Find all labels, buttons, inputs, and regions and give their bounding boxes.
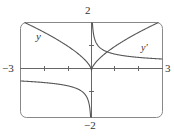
curve-y-prime-negative — [21, 81, 91, 117]
x-max-label: 3 — [165, 63, 171, 74]
series-label-y: y — [36, 31, 41, 42]
y-min-label: −2 — [84, 120, 96, 131]
x-min-label: −3 — [2, 63, 14, 74]
series-label-y-prime: y′ — [141, 42, 148, 53]
curve-y-prime-positive — [92, 23, 162, 59]
y-max-label: 2 — [85, 5, 91, 16]
